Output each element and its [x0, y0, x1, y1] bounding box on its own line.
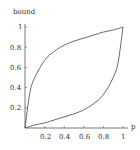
- x-tick-label: 0.8: [98, 134, 109, 141]
- y-tick-label: 0.6: [10, 65, 21, 72]
- y-tick-label: 1: [18, 24, 22, 31]
- y-tick-label: 0.8: [10, 45, 21, 52]
- x-tick-label: 0.4: [59, 134, 70, 141]
- lower-bound-curve: [25, 27, 123, 128]
- y-tick-label: 0.2: [10, 105, 21, 112]
- upper-bound-curve: [25, 27, 123, 128]
- x-axis-label: p: [131, 124, 135, 131]
- x-tick-label: 1: [121, 134, 125, 141]
- x-tick-label: 0.6: [79, 134, 90, 141]
- y-axis-label: bound: [13, 9, 35, 16]
- axis-ticks: [25, 27, 123, 128]
- x-tick-label: 0.2: [40, 134, 51, 141]
- y-tick-label: 0.4: [10, 85, 21, 92]
